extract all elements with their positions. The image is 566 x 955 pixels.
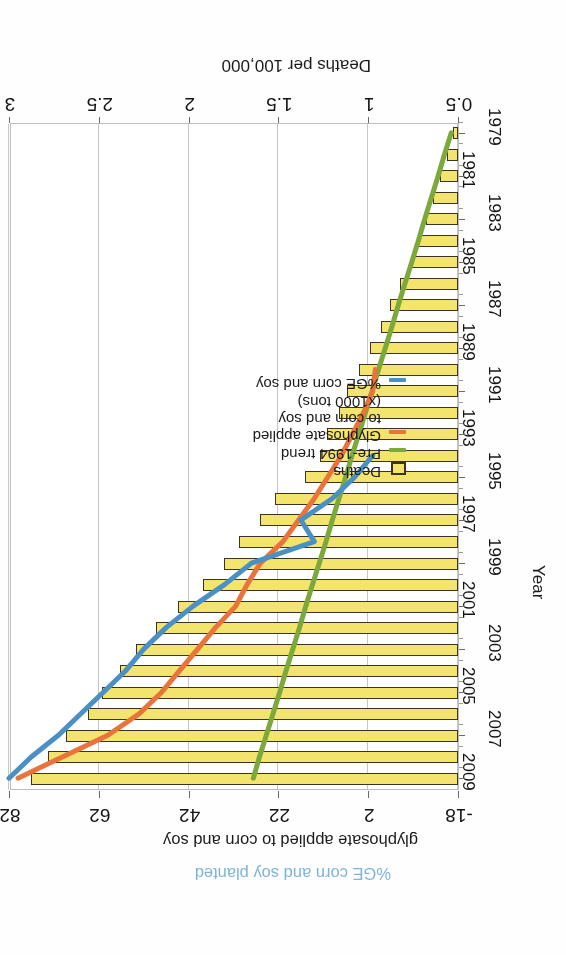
year-axis-tick: 1991 [484,366,504,404]
year-axis-tick-mark [459,649,465,650]
year-axis-minor-mark [459,725,463,726]
line-ge-corn-and-soy [9,456,373,779]
year-axis-tick-mark [459,520,465,521]
secondary-axis-tick-mark [458,791,459,798]
year-axis-minor-mark [459,273,463,274]
year-axis-tick: 1985 [458,237,478,275]
value-axis-tick: 2.5 [87,93,113,115]
year-axis-tick-mark [459,735,465,736]
year-axis-minor-mark [459,574,463,575]
secondary-axis-tick: 82 [0,804,21,826]
year-axis-tick: 2001 [458,581,478,619]
year-axis-tick-mark [459,219,465,220]
chart-figure: 0.511.522.53 Deaths per 100,000 19791981… [0,0,566,955]
year-axis-minor-mark [459,251,463,252]
value-axis-tick-mark [278,117,279,123]
year-axis-minor-mark [459,380,463,381]
value-axis-tick-mark [189,117,190,123]
legend-line-icon [389,378,406,382]
legend-label: Glyphosate applied [253,428,381,444]
legend-item: Deaths [226,462,406,480]
secondary-axis-tick: 22 [269,804,290,826]
year-axis-minor-mark [459,316,463,317]
year-axis-minor-mark [459,294,463,295]
value-axis-tick: 2 [184,93,195,115]
year-axis-tick: 2009 [458,753,478,791]
year-axis-minor-mark [459,423,463,424]
year-axis-tick: 2003 [484,624,504,662]
secondary-axis-tick-mark [9,791,10,798]
year-axis-minor-mark [459,768,463,769]
year-axis-minor-mark [459,230,463,231]
value-axis-tick: 0.5 [446,93,472,115]
year-axis-minor-mark [459,445,463,446]
year-axis-minor-mark [459,703,463,704]
year-axis-tick-mark [459,434,465,435]
year-axis-tick-mark [459,348,465,349]
value-axis-tick: 1 [364,93,375,115]
year-axis-tick-mark [459,391,465,392]
value-axis-tick: 3 [5,93,16,115]
year-axis-minor-mark [459,552,463,553]
year-axis-minor-mark [459,617,463,618]
year-axis-minor-mark [459,337,463,338]
year-axis-tick: 1997 [458,495,478,533]
year-axis-minor-mark [459,531,463,532]
year-axis-tick: 1983 [484,194,504,232]
year-axis-minor-mark [459,681,463,682]
legend-swatch-icon [391,462,406,475]
legend-line-icon [389,448,406,452]
year-axis-minor-mark [459,144,463,145]
secondary-axis-tick-mark [99,791,100,798]
year-axis-tick: 1979 [484,108,504,146]
value-axis-title: Deaths per 100,000 [222,55,371,75]
year-axis-title: Year [528,565,548,599]
year-axis-tick-mark [459,305,465,306]
year-axis-minor-mark [459,466,463,467]
secondary-axis-tick-mark [278,791,279,798]
legend-label: %GE corn and soy [256,376,381,392]
secondary-axis-tick: 42 [179,804,200,826]
year-axis-tick-mark [459,477,465,478]
year-axis-tick-mark [459,692,465,693]
secondary-axis-tick: 62 [89,804,110,826]
year-axis-tick: 2007 [484,710,504,748]
value-axis-tick-mark [99,117,100,123]
legend-label-continued: (x1000 tons) [298,394,381,410]
year-axis-tick-mark [459,563,465,564]
year-axis-tick: 1993 [458,409,478,447]
secondary-axis-title-ge: %GE corn and soy planted [195,864,391,883]
year-axis-minor-mark [459,208,463,209]
year-axis-minor-mark [459,165,463,166]
legend-item: Glyphosate appliedto corn and soy(x1000 … [226,426,406,444]
year-axis-minor-mark [459,746,463,747]
year-axis-tick: 1981 [458,151,478,189]
year-axis-minor-mark [459,488,463,489]
year-axis-tick: 1999 [484,538,504,576]
year-axis-minor-mark [459,638,463,639]
secondary-axis-tick: 2 [364,804,375,826]
year-axis-tick-mark [459,778,465,779]
value-axis-tick-mark [368,117,369,123]
year-axis-minor-mark [459,509,463,510]
secondary-axis-tick-mark [189,791,190,798]
value-axis-tick-mark [9,117,10,123]
year-axis-tick-mark [459,133,465,134]
secondary-axis-tick-mark [368,791,369,798]
legend-item: %GE corn and soy [226,374,406,392]
year-axis-tick-mark [459,262,465,263]
year-axis-minor-mark [459,402,463,403]
year-axis-tick: 1989 [458,323,478,361]
legend-line-icon [389,430,406,434]
legend-label-continued: to corn and soy [278,411,381,427]
legend-label: Pre-1994 trend [281,446,381,462]
secondary-axis-tick: -18 [445,804,472,826]
year-axis-minor-mark [459,122,463,123]
year-axis-tick-mark [459,606,465,607]
legend-label: Deaths [333,464,381,480]
year-axis-tick: 1987 [484,280,504,318]
year-axis-minor-mark [459,595,463,596]
year-axis-minor-mark [459,660,463,661]
year-axis-minor-mark [459,187,463,188]
secondary-axis-title-glyphosate: glyphosate applied to corn and soy [163,831,418,850]
